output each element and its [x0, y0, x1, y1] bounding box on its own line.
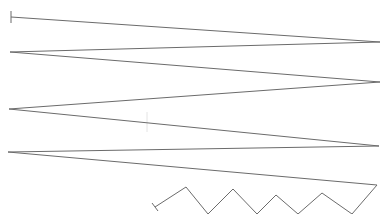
drawing-canvas[interactable]	[0, 0, 386, 214]
drawing-svg	[0, 0, 386, 214]
zigzag-polyline	[8, 17, 380, 214]
end-tick-mark	[152, 203, 158, 211]
